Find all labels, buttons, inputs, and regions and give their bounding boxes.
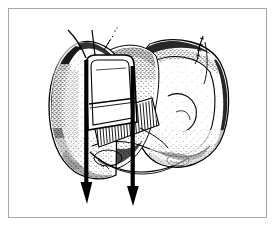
illustration-content xyxy=(46,27,235,206)
surgical-illustration xyxy=(0,0,277,227)
figure-root: Bone-patellar tendon-bone graft harvest,… xyxy=(0,0,277,227)
graft-window xyxy=(86,55,137,130)
